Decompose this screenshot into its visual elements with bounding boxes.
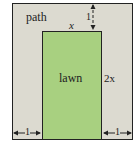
- top-gap-label: 1: [86, 12, 91, 22]
- width-label: x: [69, 20, 74, 31]
- path-label: path: [26, 11, 47, 23]
- height-label: 2x: [104, 73, 115, 84]
- right-gap-label: 1: [115, 127, 120, 137]
- lawn-label: lawn: [59, 72, 82, 84]
- left-gap-label: 1: [25, 127, 30, 137]
